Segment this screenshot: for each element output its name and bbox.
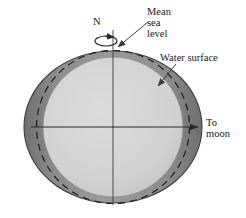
diagram-canvas bbox=[0, 0, 246, 218]
water-surface-label: Water surface bbox=[160, 52, 218, 63]
mean-sea-level-label: Mean sea level bbox=[147, 6, 171, 39]
tidal-bulge-diagram: N Mean sea level Water surface To moon bbox=[0, 0, 246, 218]
mean-sea-level-leader-line bbox=[118, 22, 148, 47]
to-moon-label: To moon bbox=[206, 117, 230, 139]
north-pole-label: N bbox=[93, 16, 101, 27]
